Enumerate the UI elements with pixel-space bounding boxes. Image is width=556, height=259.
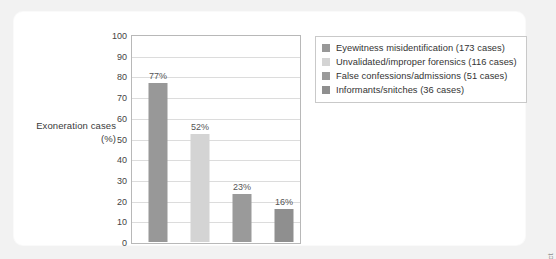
- y-axis-tick-label: 40: [117, 155, 127, 165]
- legend-swatch-icon: [322, 72, 330, 80]
- bar-series: 77%52%23%16%: [133, 37, 299, 242]
- plot-region: 1009080706050403020100 77%52%23%16%: [131, 35, 301, 244]
- chart-legend: Eyewitness misidentification (173 cases)…: [315, 36, 527, 103]
- legend-item: Unvalidated/improper forensics (116 case…: [322, 55, 520, 69]
- bar: 77%: [149, 83, 168, 242]
- legend-item: False confessions/admissions (51 cases): [322, 69, 520, 83]
- y-axis-tick-label: 90: [117, 52, 127, 62]
- y-axis-title: Exoneration cases (%): [30, 120, 116, 145]
- bar: 23%: [233, 194, 252, 242]
- legend-swatch-icon: [322, 86, 330, 94]
- y-axis-tick-label: 100: [112, 31, 127, 41]
- legend-item-label: Eyewitness misidentification (173 cases): [336, 43, 505, 53]
- bar-value-label: 52%: [191, 122, 209, 132]
- bar-value-label: 16%: [275, 197, 293, 207]
- y-axis-tick-label: 60: [117, 114, 127, 124]
- bar-value-label: 23%: [233, 182, 251, 192]
- y-axis-tick-label: 70: [117, 93, 127, 103]
- y-axis-tick-label: 50: [117, 135, 127, 145]
- y-axis-tick-label: 30: [117, 176, 127, 186]
- bar: 16%: [275, 209, 294, 242]
- figure-card: Exoneration cases (%) 100908070605040302…: [14, 12, 525, 245]
- plot-area: 1009080706050403020100 77%52%23%16%: [131, 35, 301, 244]
- legend-item: Informants/snitches (36 cases): [322, 83, 520, 97]
- legend-swatch-icon: [322, 44, 330, 52]
- credit-text: Paul Cates, Innocence Project: [546, 253, 555, 259]
- legend-item-label: False confessions/admissions (51 cases): [336, 71, 507, 81]
- y-axis-tick-label: 10: [117, 217, 127, 227]
- legend-item-label: Informants/snitches (36 cases): [336, 85, 464, 95]
- bar: 52%: [191, 134, 210, 242]
- y-axis-tick-label: 80: [117, 72, 127, 82]
- y-axis-tick-label: 0: [122, 238, 127, 248]
- bar-value-label: 77%: [149, 71, 167, 81]
- y-axis-tick-label: 20: [117, 197, 127, 207]
- legend-item: Eyewitness misidentification (173 cases): [322, 41, 520, 55]
- legend-swatch-icon: [322, 58, 330, 66]
- legend-item-label: Unvalidated/improper forensics (116 case…: [336, 57, 517, 67]
